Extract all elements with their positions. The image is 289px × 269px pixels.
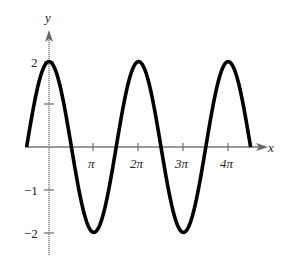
y-tick-label-neg2: −2 bbox=[24, 226, 38, 241]
x-tick-label-4pi: 4π bbox=[220, 156, 234, 171]
graph-container: y x 2 −1 −2 π 2π 3π 4π bbox=[0, 0, 289, 269]
y-tick-label-neg1: −1 bbox=[24, 183, 38, 198]
y-axis-label: y bbox=[43, 10, 51, 25]
x-tick-label-2pi: 2π bbox=[130, 156, 144, 171]
cosine-graph: y x 2 −1 −2 π 2π 3π 4π bbox=[0, 0, 289, 269]
x-axis-label: x bbox=[267, 140, 274, 155]
x-tick-label-pi: π bbox=[88, 156, 95, 171]
y-tick-label-2: 2 bbox=[31, 55, 38, 70]
x-tick-label-3pi: 3π bbox=[174, 156, 189, 171]
